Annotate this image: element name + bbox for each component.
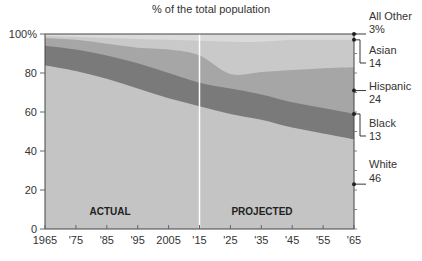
actual-label: ACTUAL <box>89 206 130 217</box>
y-tick-label: 80 <box>25 67 37 79</box>
stacked-area-chart: 020406080100%1965'75'85'952005'15'25'35'… <box>0 0 422 261</box>
x-tick-label: '35 <box>254 234 268 246</box>
label-asian-value: 14 <box>369 57 381 69</box>
x-tick-label: '55 <box>316 234 330 246</box>
label-hispanic-name: Hispanic <box>369 80 412 92</box>
x-tick-label: '25 <box>223 234 237 246</box>
y-tick-label: 60 <box>25 106 37 118</box>
y-tick-label: 40 <box>25 145 37 157</box>
label-all-other-name: All Other <box>369 10 412 22</box>
x-tick-label: 1965 <box>33 234 57 246</box>
x-tick-label: '95 <box>131 234 145 246</box>
leader-black <box>354 114 366 136</box>
label-asian-name: Asian <box>369 44 397 56</box>
label-white-name: White <box>369 158 397 170</box>
x-tick-label: '85 <box>100 234 114 246</box>
projected-label: PROJECTED <box>231 206 292 217</box>
label-all-other-value: 3% <box>369 23 385 35</box>
label-black-name: Black <box>369 117 396 129</box>
label-white-value: 46 <box>369 172 381 184</box>
y-tick-label: 20 <box>25 184 37 196</box>
label-hispanic-value: 24 <box>369 93 381 105</box>
x-tick-label: 2005 <box>156 234 180 246</box>
y-tick-label: 100% <box>9 28 37 40</box>
x-tick-label: '65 <box>347 234 361 246</box>
leader-asian <box>354 40 366 63</box>
x-tick-label: '75 <box>69 234 83 246</box>
x-tick-label: '15 <box>192 234 206 246</box>
x-tick-label: '45 <box>285 234 299 246</box>
label-black-value: 13 <box>369 130 381 142</box>
